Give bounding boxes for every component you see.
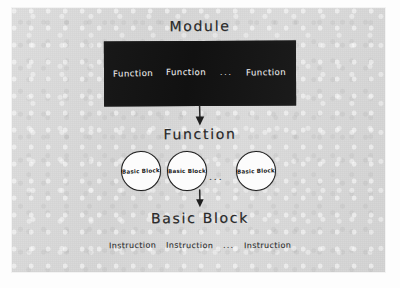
basic-block-ellipsis: ...	[209, 172, 224, 182]
basic-block-label-1: Basic Block	[122, 167, 160, 175]
arrow-module-to-function	[190, 105, 210, 127]
function-label-1: Function	[113, 68, 153, 79]
module-box-ellipsis: ...	[218, 67, 235, 77]
page-title: Module	[0, 17, 400, 36]
basic-block-label-3: Basic Block	[237, 167, 275, 174]
section-heading-function: Function	[0, 125, 400, 144]
module-box: Function Function ... Function	[104, 41, 296, 107]
instruction-row: Instruction Instruction ... Instruction	[0, 241, 400, 250]
arrow-function-to-basic-block	[190, 189, 210, 209]
module-box-function-row: Function Function ... Function	[104, 67, 296, 78]
basic-block-node-3: Basic Block	[236, 151, 276, 191]
instruction-label-3: Instruction	[244, 241, 291, 250]
instruction-ellipsis: ...	[223, 241, 234, 250]
instruction-label-1: Instruction	[108, 241, 155, 251]
function-label-2: Function	[166, 67, 206, 77]
basic-block-label-2: Basic Block	[168, 168, 206, 174]
section-heading-basic-block: Basic Block	[0, 209, 400, 228]
instruction-label-2: Instruction	[166, 241, 213, 250]
function-label-3: Function	[246, 67, 286, 78]
diagram-canvas: Module Function Function ... Function Fu…	[0, 0, 400, 288]
